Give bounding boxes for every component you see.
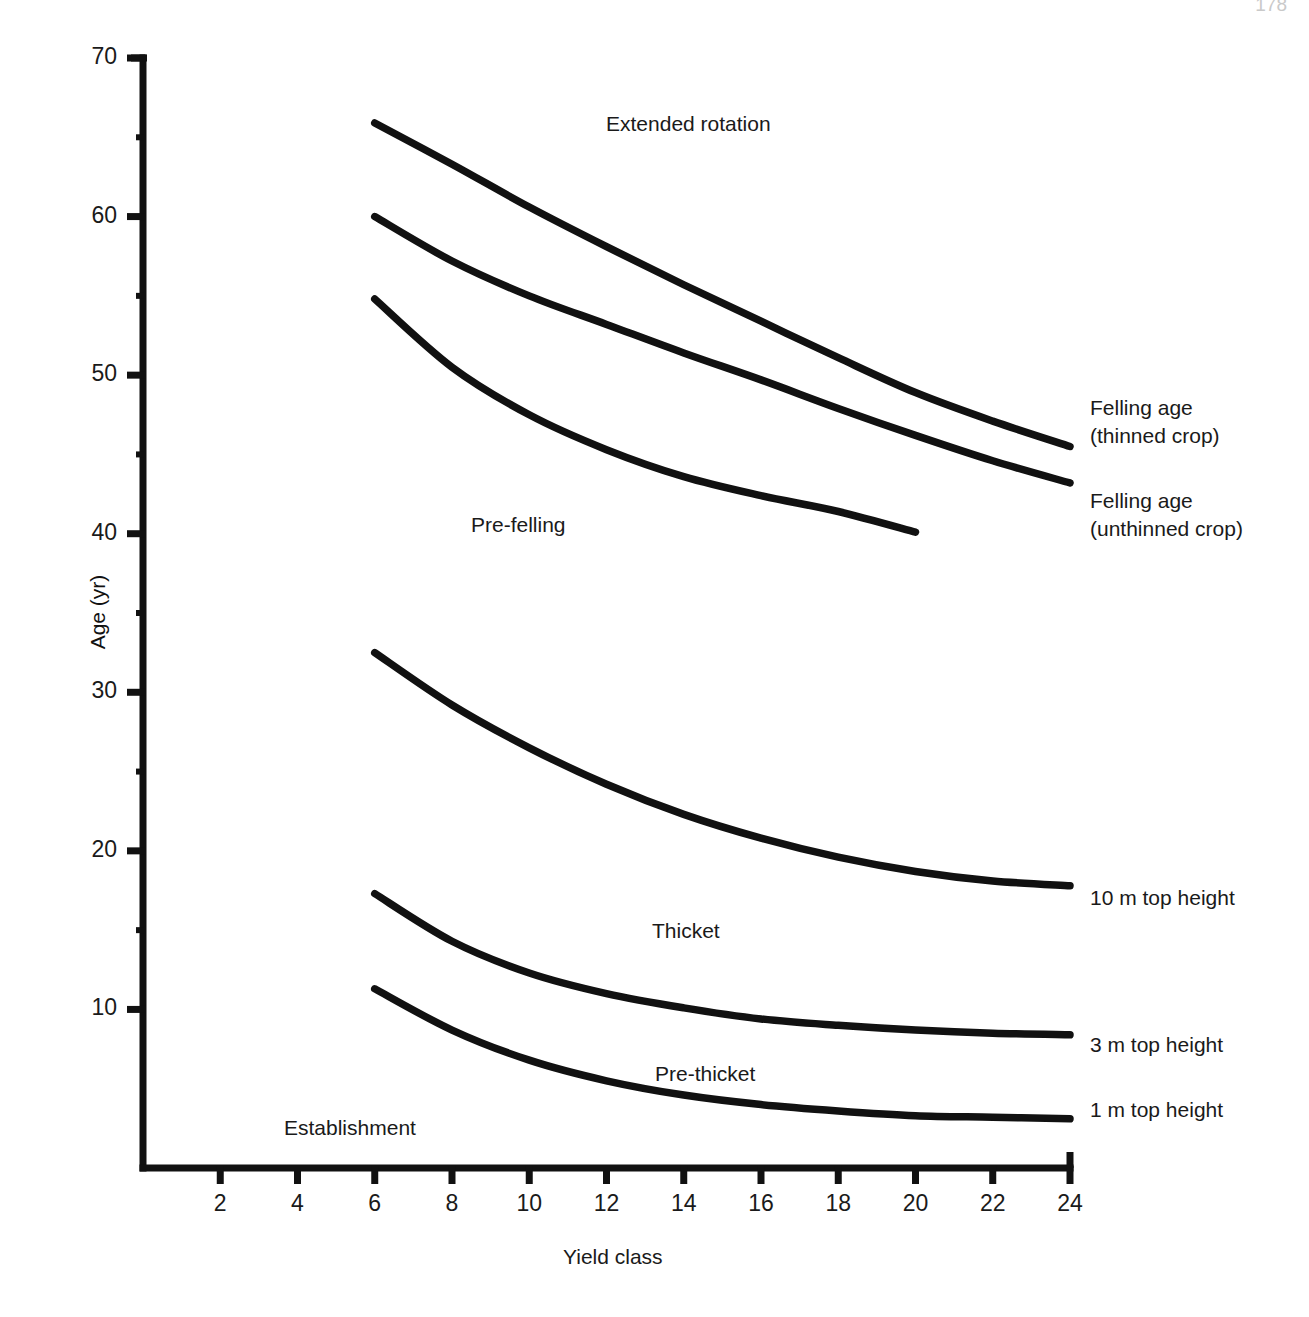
y-tick-label: 40 bbox=[65, 518, 117, 548]
x-tick-label: 4 bbox=[268, 1189, 328, 1219]
x-tick-label: 22 bbox=[963, 1189, 1023, 1219]
axis-lines bbox=[131, 58, 1070, 1168]
x-tick-label: 18 bbox=[808, 1189, 868, 1219]
chart-canvas: 178 10203040506070 24681012141618202224 … bbox=[0, 0, 1309, 1317]
annotation-establishment: Establishment bbox=[284, 1114, 416, 1141]
series-curve-1 bbox=[375, 217, 1070, 483]
series-label-felling-thinned-line2: (thinned crop) bbox=[1090, 422, 1220, 449]
annotation-pre-felling: Pre-felling bbox=[471, 511, 566, 538]
y-tick-label: 70 bbox=[65, 42, 117, 72]
y-tick-label: 20 bbox=[65, 835, 117, 865]
x-tick-label: 2 bbox=[190, 1189, 250, 1219]
series-label-felling-unthinned-line2: (unthinned crop) bbox=[1090, 515, 1243, 542]
series-curve-4 bbox=[375, 894, 1070, 1035]
y-tick-label: 60 bbox=[65, 201, 117, 231]
annotation-thicket: Thicket bbox=[652, 917, 720, 944]
series-curve-0 bbox=[375, 123, 1070, 446]
y-axis-title: Age (yr) bbox=[86, 552, 110, 672]
series-label-3m-top-height: 3 m top height bbox=[1090, 1031, 1223, 1058]
series-curve-2 bbox=[375, 299, 916, 532]
series-label-10m-top-height: 10 m top height bbox=[1090, 884, 1235, 911]
series-label-1m-top-height: 1 m top height bbox=[1090, 1096, 1223, 1123]
series-curve-3 bbox=[375, 653, 1070, 886]
y-tick-label: 30 bbox=[65, 676, 117, 706]
x-tick-label: 6 bbox=[345, 1189, 405, 1219]
series-label-felling-thinned-line1: Felling age bbox=[1090, 394, 1193, 421]
series-label-felling-unthinned-line1: Felling age bbox=[1090, 487, 1193, 514]
x-tick-label: 14 bbox=[654, 1189, 714, 1219]
annotation-pre-thicket: Pre-thicket bbox=[655, 1060, 755, 1087]
x-tick-label: 12 bbox=[577, 1189, 637, 1219]
data-curves bbox=[375, 123, 1070, 1119]
x-tick-label: 8 bbox=[422, 1189, 482, 1219]
y-tick-label: 10 bbox=[65, 993, 117, 1023]
x-tick-label: 20 bbox=[886, 1189, 946, 1219]
annotation-extended-rotation: Extended rotation bbox=[606, 110, 771, 137]
x-tick-label: 24 bbox=[1040, 1189, 1100, 1219]
series-curve-5 bbox=[375, 989, 1070, 1119]
x-tick-label: 10 bbox=[499, 1189, 559, 1219]
y-tick-label: 50 bbox=[65, 359, 117, 389]
x-axis-title: Yield class bbox=[563, 1243, 663, 1270]
x-tick-label: 16 bbox=[731, 1189, 791, 1219]
